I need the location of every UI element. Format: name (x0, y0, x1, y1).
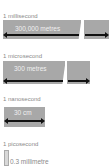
distance-label-picosecond: 0.3 millimetre (10, 158, 49, 165)
time-label-nanosecond: 1 nanosecond (3, 96, 41, 103)
time-label-millisecond: 1 millisecond (3, 13, 38, 20)
time-label-microsecond: 1 microsecond (3, 53, 42, 60)
arrow-right-head-icon (105, 32, 109, 38)
arrow-right-head-icon (41, 118, 45, 124)
distance-label-millisecond: 300,000 metres (15, 25, 60, 32)
arrow-shaft (6, 80, 63, 82)
arrow-shaft (6, 34, 79, 36)
arrow-shaft-continued (68, 80, 86, 82)
distance-label-microsecond: 300 metres (14, 65, 47, 72)
time-label-picosecond: 1 picosecond (3, 141, 38, 148)
distance-bar (4, 150, 9, 166)
arrow-right-head-icon (86, 78, 90, 84)
arrow-shaft (7, 120, 41, 122)
arrow-shaft-continued (85, 34, 105, 36)
distance-label-nanosecond: 30 cm (14, 109, 32, 116)
